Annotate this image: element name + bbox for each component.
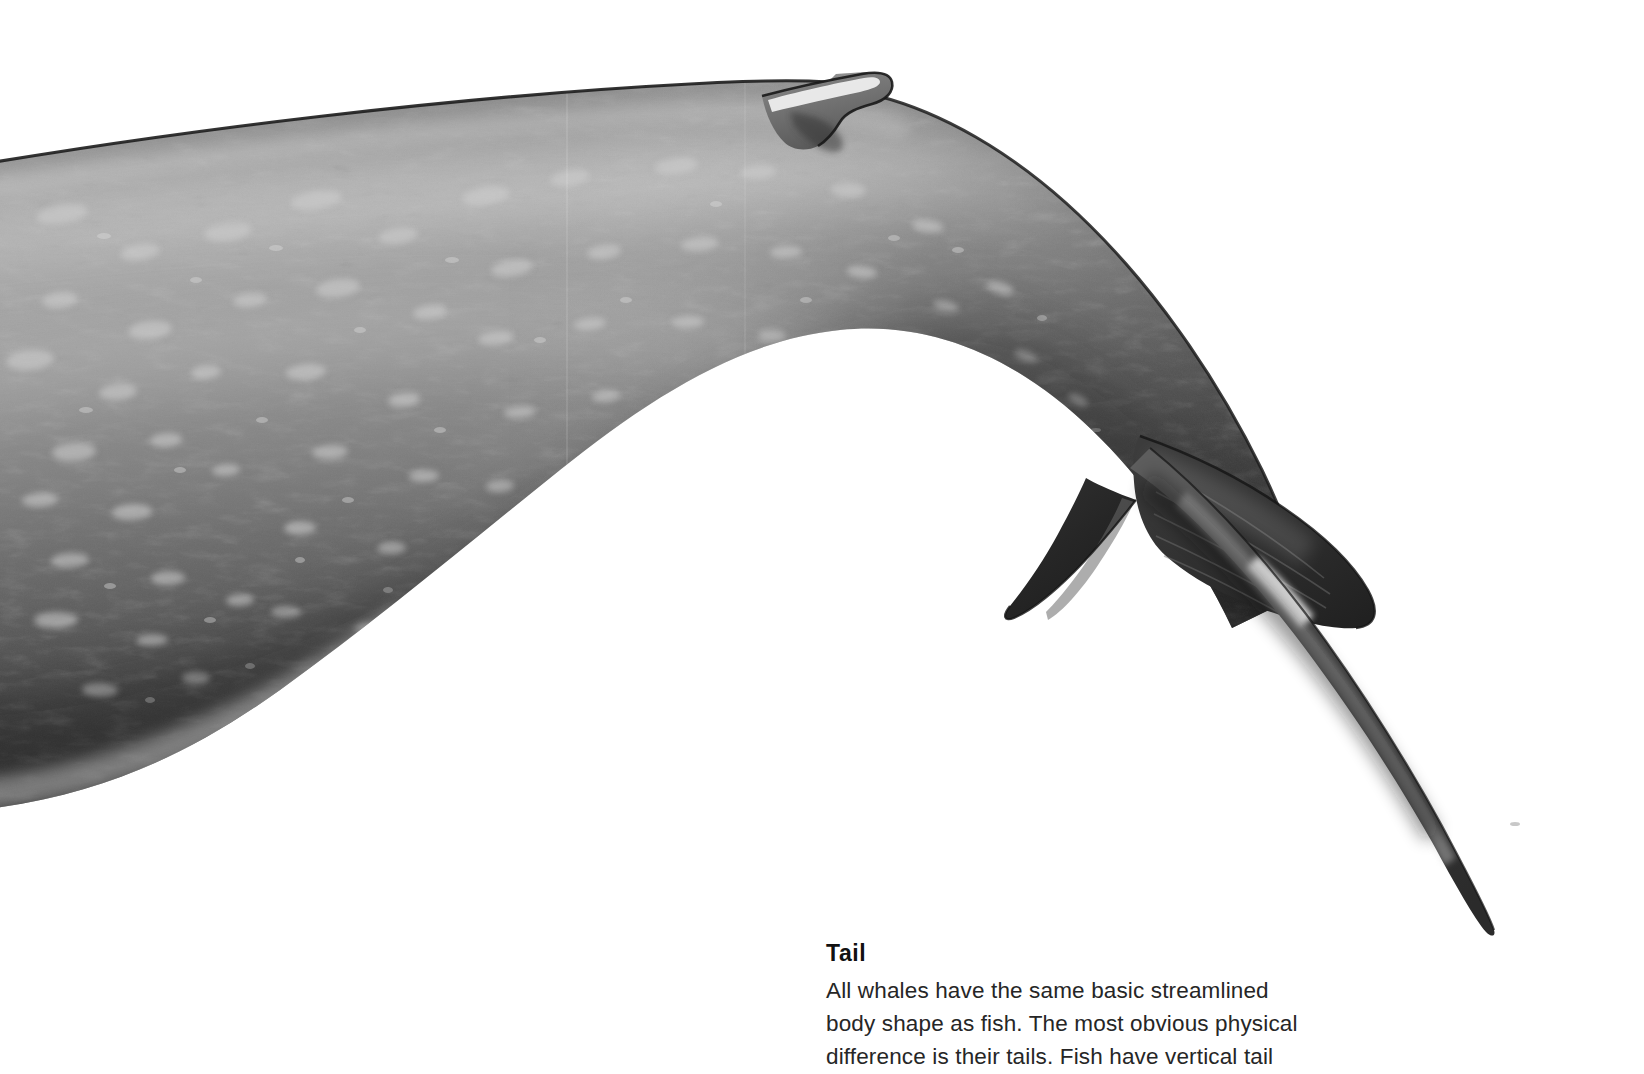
tail-blade: [1130, 448, 1495, 936]
whale-illustration: [0, 0, 1644, 1074]
fluke-near-lobe: [1005, 478, 1136, 620]
caption-body: All whales have the same basic streamlin…: [826, 974, 1296, 1073]
scan-speck: [1510, 822, 1520, 826]
caption-title: Tail: [826, 938, 1296, 968]
caption-line-3: difference is their tails. Fish have ver…: [826, 1040, 1296, 1073]
caption-line-2: body shape as fish. The most obvious phy…: [826, 1007, 1296, 1040]
tail-caption-block: Tail All whales have the same basic stre…: [826, 938, 1296, 1073]
page-root: Tail All whales have the same basic stre…: [0, 0, 1644, 1074]
caption-line-1: All whales have the same basic streamlin…: [826, 974, 1296, 1007]
